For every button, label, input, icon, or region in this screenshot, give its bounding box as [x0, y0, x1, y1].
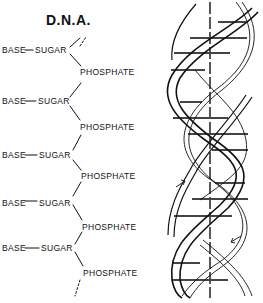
diagram-lines: [0, 0, 263, 303]
chain-continuation-top: [80, 37, 86, 46]
dna-diagram: D.N.A. BASE SUGAR PHOSPHATE BASE SUGAR P…: [0, 0, 263, 303]
double-helix: [167, 2, 258, 298]
chain-continuation-bottom: [75, 280, 80, 296]
